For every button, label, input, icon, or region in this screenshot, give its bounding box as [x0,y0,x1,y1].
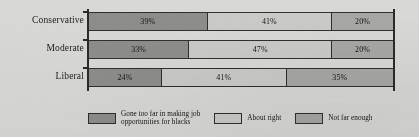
bar-segment-about-right[interactable]: 47% [189,41,332,58]
bar-segment-gone-too-far[interactable]: 39% [89,13,208,30]
axis-tick-liberal [83,67,87,69]
axis-line-right [393,9,395,91]
bar-segment-not-far-enough[interactable]: 20% [332,13,393,30]
stacked-bar-chart: Conservative Moderate Liberal 39% 41% 20… [0,0,419,137]
bar-segment-gone-too-far[interactable]: 33% [89,41,189,58]
category-label-moderate: Moderate [46,43,84,53]
legend-item-gone-too-far[interactable]: Gone too far in making job opportunities… [88,110,200,126]
legend-swatch-icon [88,113,116,124]
legend-swatch-icon [214,113,242,124]
chart-legend: Gone too far in making job opportunities… [88,110,372,126]
bar-segment-about-right[interactable]: 41% [162,69,287,86]
axis-tick-moderate [83,39,87,41]
bar-segment-not-far-enough[interactable]: 35% [287,69,393,86]
bar-segment-about-right[interactable]: 41% [208,13,333,30]
category-label-conservative: Conservative [32,15,84,25]
bar-row-conservative: 39% 41% 20% [89,12,393,31]
bar-row-moderate: 33% 47% 20% [89,40,393,59]
category-label-liberal: Liberal [56,71,84,81]
legend-label: About right [247,114,281,122]
legend-label: Not far enough [328,114,372,122]
legend-swatch-icon [295,113,323,124]
axis-tick-conservative [83,11,87,13]
legend-item-about-right[interactable]: About right [214,113,281,124]
legend-item-not-far-enough[interactable]: Not far enough [295,113,372,124]
bar-segment-gone-too-far[interactable]: 24% [89,69,162,86]
bar-segment-not-far-enough[interactable]: 20% [332,41,393,58]
plot-area: 39% 41% 20% 33% 47% 20% 24% 41% 35% [87,9,395,91]
legend-label: Gone too far in making job opportunities… [121,110,200,126]
bar-row-liberal: 24% 41% 35% [89,68,393,87]
